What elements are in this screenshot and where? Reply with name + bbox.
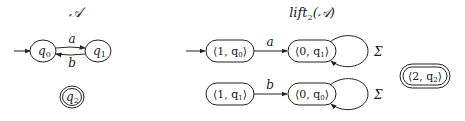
svg-text:⟨1, q0⟩: ⟨1, q0⟩ [213, 45, 247, 59]
state-0-q1: ⟨0, q1⟩ [288, 40, 336, 62]
state-q0: q0 [30, 40, 56, 62]
left-automaton-title: 𝒜 [69, 4, 86, 20]
state-2-q2-label: ⟨2, q [408, 70, 433, 83]
transition-q0-q1-label: a [68, 32, 75, 46]
left-automaton: 𝒜 q0 q1 a b q2 [14, 4, 111, 108]
state-q2-sub: 2 [74, 96, 79, 105]
svg-text:⟨0, q1⟩: ⟨0, q1⟩ [295, 45, 329, 59]
state-1-q0: ⟨1, q0⟩ [206, 40, 254, 62]
state-q0-sub: 0 [46, 50, 51, 59]
state-0-q0-label: ⟨0, q [295, 88, 320, 101]
svg-text:⟨0, q0⟩: ⟨0, q0⟩ [295, 88, 329, 102]
svg-text:q0: q0 [38, 44, 51, 59]
self-loop-0q0-label: Σ [373, 88, 383, 102]
right-automaton: lift2(𝒜) ⟨1, q0⟩ ⟨0, q1⟩ a Σ ⟨1, q1⟩ ⟨0,… [186, 5, 450, 110]
right-automaton-title: lift2(𝒜) [289, 5, 335, 22]
transition-q0-q1 [56, 47, 85, 48]
transition-1q0-0q1-label: a [266, 35, 273, 49]
state-1-q1-label: ⟨1, q [213, 88, 238, 101]
svg-text:⟨2, q2⟩: ⟨2, q2⟩ [408, 70, 442, 84]
state-q2: q2 [60, 86, 84, 108]
state-q1: q1 [85, 40, 111, 62]
state-0-q0: ⟨0, q0⟩ [288, 83, 336, 105]
svg-text:q1: q1 [93, 44, 106, 59]
transition-q1-q0-label: b [68, 56, 76, 70]
state-2-q2: ⟨2, q2⟩ [400, 64, 450, 88]
svg-text:⟨1, q1⟩: ⟨1, q1⟩ [213, 88, 247, 102]
diagram-canvas: 𝒜 q0 q1 a b q2 lift2(𝒜) [0, 0, 465, 121]
svg-text:q2: q2 [66, 90, 79, 105]
state-0-q1-label: ⟨0, q [295, 45, 320, 58]
transition-q1-q0 [56, 54, 85, 55]
state-1-q0-label: ⟨1, q [213, 45, 238, 58]
state-1-q1: ⟨1, q1⟩ [206, 83, 254, 105]
self-loop-0q1-label: Σ [373, 45, 383, 59]
state-q1-sub: 1 [101, 50, 106, 59]
transition-1q1-0q0-label: b [266, 78, 274, 92]
